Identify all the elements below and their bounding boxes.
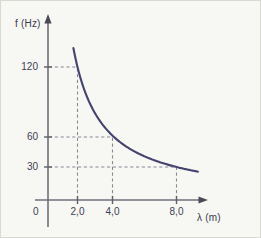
- data-curve-series-0: [73, 48, 198, 172]
- y-axis-label: f (Hz): [15, 18, 41, 29]
- x-tick-label-2: 2,0: [63, 206, 92, 217]
- y-tick-label-60: 60: [10, 131, 38, 142]
- tick-marks: [44, 67, 177, 204]
- y-tick-label-120: 120: [10, 61, 38, 72]
- chart-figure: f (Hz) λ (m) 0 120 60 30 2,0 4,0 8,0: [0, 0, 261, 238]
- gridlines-vertical: [78, 67, 177, 199]
- x-tick-label-4: 4,0: [98, 206, 127, 217]
- x-axis-label: λ (m): [197, 212, 221, 223]
- x-axis: [35, 196, 208, 203]
- origin-label: 0: [33, 206, 39, 217]
- x-tick-label-8: 8,0: [162, 206, 191, 217]
- plot-area: [1, 1, 261, 238]
- y-axis: [44, 14, 51, 227]
- y-tick-label-30: 30: [10, 161, 38, 172]
